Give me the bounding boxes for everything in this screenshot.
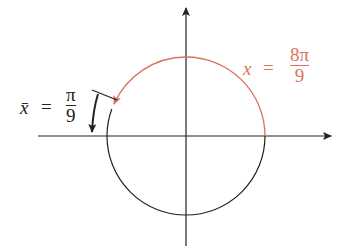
diagram-canvas: x = 8π 9 x̄ = π 9: [0, 0, 344, 252]
angle-label-eq: =: [263, 57, 274, 79]
reference-label-lhs: x̄: [20, 97, 28, 119]
reference-numerator: π: [66, 85, 76, 105]
circle-upper-left: [107, 109, 112, 136]
unit-circle-figure: [0, 0, 344, 252]
angle-numerator: 8π: [290, 45, 309, 65]
reference-arc-arrow: [92, 94, 98, 132]
reference-denominator: 9: [66, 106, 76, 126]
angle-label-lhs: x: [243, 58, 251, 80]
reference-label-fraction: π 9: [66, 85, 76, 126]
angle-label-fraction: 8π 9: [290, 45, 309, 86]
reference-label-eq: =: [41, 96, 52, 118]
angle-denominator: 9: [295, 66, 305, 86]
